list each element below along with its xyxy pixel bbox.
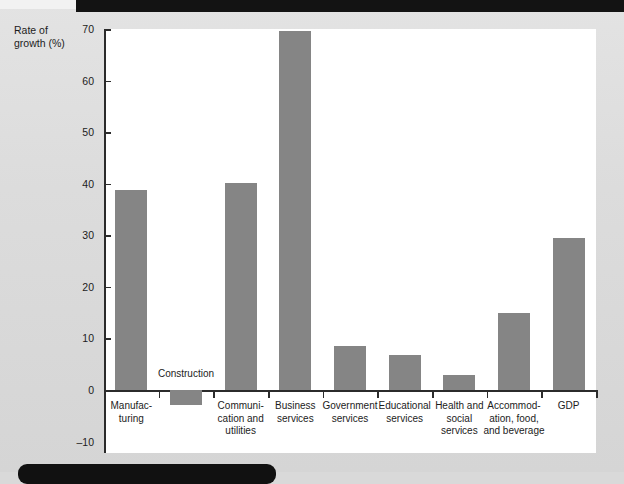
- x-tick-mark: [377, 390, 379, 398]
- y-tick-label: –10: [50, 436, 94, 448]
- x-axis-category-label-line: turing: [97, 413, 166, 426]
- y-tick-label: 50: [50, 126, 94, 138]
- bar: [279, 31, 311, 390]
- x-tick-mark: [213, 390, 215, 398]
- x-tick-mark: [432, 390, 434, 398]
- y-tick-label: 30: [50, 229, 94, 241]
- y-tick-label: 40: [50, 178, 94, 190]
- bar: [170, 390, 202, 405]
- bar: [225, 183, 257, 390]
- bottom-black-tab: [18, 464, 276, 484]
- x-tick-mark: [323, 390, 325, 398]
- y-tick-mark: [104, 235, 111, 237]
- y-tick-label: 10: [50, 332, 94, 344]
- x-axis-category-label: Construction: [152, 368, 221, 381]
- bar-chart-figure: Rate of growth (%) 706050403020100–10 Ma…: [0, 12, 624, 460]
- bar: [498, 313, 530, 390]
- x-tick-mark: [268, 390, 270, 398]
- x-tick-mark: [541, 390, 543, 398]
- x-axis-category-label-line: ation, food,: [480, 413, 549, 426]
- x-tick-mark: [159, 390, 161, 398]
- x-axis-category-label-line: and beverage: [480, 425, 549, 438]
- top-left-notch: [0, 0, 76, 9]
- x-axis-category-label: GDP: [534, 400, 603, 413]
- x-axis-category-label-line: GDP: [534, 400, 603, 413]
- y-tick-mark: [104, 81, 111, 83]
- x-axis-category-label-line: utilities: [206, 425, 275, 438]
- y-tick-mark: [104, 184, 111, 186]
- y-tick-label: 20: [50, 281, 94, 293]
- y-tick-mark: [104, 287, 111, 289]
- top-black-banner: [76, 0, 624, 12]
- x-axis-category-label-line: Manufac-: [97, 400, 166, 413]
- y-axis-title-line2: growth (%): [14, 37, 92, 50]
- y-tick-label: 0: [50, 384, 94, 396]
- bar: [115, 190, 147, 390]
- bar: [334, 346, 366, 390]
- y-tick-mark: [104, 132, 111, 134]
- bar: [553, 238, 585, 390]
- x-tick-mark: [487, 390, 489, 398]
- y-tick-mark: [104, 338, 111, 340]
- x-axis-category-label: Manufac-turing: [97, 400, 166, 425]
- y-tick-mark: [104, 29, 111, 31]
- bar: [389, 355, 421, 390]
- x-tick-mark: [104, 390, 106, 398]
- bar: [443, 375, 475, 390]
- x-tick-mark: [596, 390, 598, 398]
- y-tick-label: 60: [50, 75, 94, 87]
- x-axis-category-label-line: Construction: [152, 368, 221, 381]
- y-tick-label: 70: [50, 23, 94, 35]
